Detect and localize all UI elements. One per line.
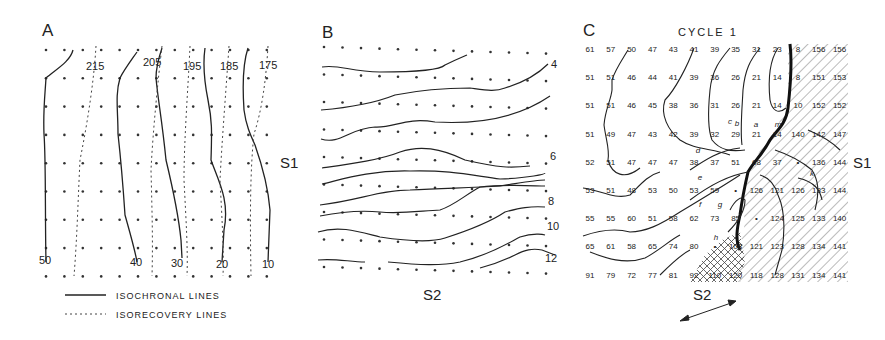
activation-time-value: 73 xyxy=(710,214,719,223)
electrode-dot xyxy=(210,77,213,80)
electrode-dot xyxy=(489,271,492,274)
electrode-dot xyxy=(415,103,418,106)
electrode-dot xyxy=(323,211,326,214)
electrode-dot xyxy=(415,48,418,51)
electrode-dot xyxy=(155,162,158,165)
electrode-dot xyxy=(323,266,326,269)
activation-time-value: 21 xyxy=(752,73,761,82)
electrode-dot xyxy=(397,268,400,271)
electrode-dot xyxy=(508,244,511,247)
electrode-dot xyxy=(471,133,474,136)
electrode-dot xyxy=(471,243,474,246)
electrode-dot xyxy=(100,49,103,52)
electrode-dot xyxy=(63,77,66,80)
electrode-dot xyxy=(489,78,492,81)
electrode-dot xyxy=(545,135,548,138)
electrode-dot xyxy=(192,219,195,222)
activation-time-value: 120 xyxy=(729,271,743,280)
activation-time-value: 55 xyxy=(606,214,615,223)
electrode-dot xyxy=(229,219,232,222)
activation-time-value: 45 xyxy=(648,101,657,110)
electrode-dot xyxy=(100,77,103,80)
activation-time-value: 38 xyxy=(690,158,699,167)
annotation-c: c xyxy=(728,117,732,126)
electrode-dot xyxy=(434,104,437,107)
activation-time-value: 43 xyxy=(648,130,657,139)
activation-time-value: 128 xyxy=(771,271,785,280)
activation-time-value: 51 xyxy=(606,73,615,82)
electrode-dot xyxy=(508,134,511,137)
electrode-dot xyxy=(378,102,381,105)
electrode-dot xyxy=(229,162,232,165)
electrode-dot xyxy=(174,105,177,108)
activation-time-value: 144 xyxy=(833,186,847,195)
electrode-dot xyxy=(526,52,529,55)
electrode-dot xyxy=(229,134,232,137)
activation-time-value: 151 xyxy=(812,73,826,82)
electrode-dot xyxy=(434,159,437,162)
electrode-dot xyxy=(415,131,418,134)
electrode-dot xyxy=(174,77,177,80)
electrode-dot xyxy=(210,49,213,52)
panel-b-s2-label: S2 xyxy=(423,286,441,303)
electrode-dot xyxy=(192,77,195,80)
panel-c-s1-label: S1 xyxy=(853,154,871,171)
electrode-dot xyxy=(508,51,511,54)
electrode-dot xyxy=(82,105,85,108)
electrode-dot xyxy=(415,213,418,216)
activation-time-value: 74 xyxy=(669,242,678,251)
panel-c-letter: C xyxy=(583,21,595,40)
electrode-dot xyxy=(210,247,213,250)
electrode-dot xyxy=(508,106,511,109)
isochronal-label-30: 30 xyxy=(171,257,183,269)
isorecovery-label-205: 205 xyxy=(143,56,161,68)
electrode-dot xyxy=(155,49,158,52)
electrode-dot xyxy=(489,51,492,54)
electrode-dot xyxy=(137,49,140,52)
activation-time-value: 152 xyxy=(833,101,847,110)
activation-time-value: 26 xyxy=(731,101,740,110)
activation-time-value: 14 xyxy=(773,101,782,110)
activation-time-value: 77 xyxy=(648,271,657,280)
activation-time-value: 31 xyxy=(710,101,719,110)
electrode-dot xyxy=(63,190,66,193)
annotation-m: m xyxy=(775,120,782,129)
annotation-a: a xyxy=(754,120,759,129)
legend-isochronal-label: ISOCHRONAL LINES xyxy=(116,291,220,301)
electrode-dot xyxy=(378,212,381,215)
activation-time-value: 29 xyxy=(731,130,740,139)
electrode-dot xyxy=(526,162,529,165)
annotation-g: g xyxy=(718,200,723,209)
annotation-b: b xyxy=(735,119,740,128)
electrode-dot xyxy=(229,247,232,250)
electrode-dot xyxy=(415,241,418,244)
activation-time-value: 47 xyxy=(627,158,636,167)
activation-time-value: 108 xyxy=(729,242,743,251)
electrode-dot xyxy=(137,190,140,193)
electrode-dot xyxy=(341,156,344,159)
activation-time-value: 118 xyxy=(750,271,763,280)
electrode-dot xyxy=(452,270,455,273)
activation-time-value: 57 xyxy=(606,45,615,54)
electrode-dot xyxy=(323,73,326,76)
activation-time-value: 26 xyxy=(731,73,740,82)
electrode-dot xyxy=(378,75,381,78)
activation-time-value: 156 xyxy=(812,45,826,54)
electrode-dot xyxy=(489,188,492,191)
isochronal-label-12: 12 xyxy=(545,252,557,264)
activation-time-value: 47 xyxy=(648,45,657,54)
electrode-dot xyxy=(100,190,103,193)
electrode-dot xyxy=(137,247,140,250)
electrode-dot xyxy=(247,275,250,278)
electrode-dot xyxy=(82,247,85,250)
activation-time-value: 47 xyxy=(627,130,636,139)
activation-time-value: 39 xyxy=(690,130,699,139)
isochronal-label-4: 4 xyxy=(551,58,557,70)
activation-time-value: 53 xyxy=(586,186,595,195)
electrode-dot xyxy=(247,247,250,250)
activation-time-value: 91 xyxy=(586,271,595,280)
electrode-dot xyxy=(192,162,195,165)
electrode-dot xyxy=(82,134,85,137)
annotation-f: f xyxy=(699,200,702,209)
panel-c-title: CYCLE 1 xyxy=(678,26,738,38)
